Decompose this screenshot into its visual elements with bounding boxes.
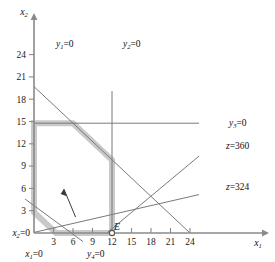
label-vertex-E: E bbox=[113, 221, 120, 232]
x-tick-labels: 3 6 9 12 15 18 21 24 bbox=[51, 237, 195, 247]
x-tick-label-21: 21 bbox=[166, 237, 176, 247]
gradient-arrow-head bbox=[61, 189, 67, 196]
label-x1-zero: x1=0 bbox=[24, 249, 43, 260]
linear-programming-graph: 3 6 9 12 15 18 21 24 3 6 9 12 15 18 21 2… bbox=[0, 0, 275, 262]
y-tick-labels: 3 6 9 12 15 18 21 24 bbox=[17, 50, 27, 216]
y-tick-label-18: 18 bbox=[17, 95, 27, 105]
y-tick-label-12: 12 bbox=[17, 139, 27, 149]
label-y1: y1=0 bbox=[55, 39, 74, 50]
feasible-region-outline bbox=[34, 123, 112, 233]
label-x2-zero: x2=0 bbox=[11, 228, 30, 239]
label-z-324: z=324 bbox=[225, 182, 250, 192]
y-tick-label-21: 21 bbox=[17, 72, 27, 82]
y-tick-label-9: 9 bbox=[21, 161, 26, 171]
x-tick-label-15: 15 bbox=[127, 237, 137, 247]
x-axis-arrowhead bbox=[262, 230, 269, 237]
y-tick-label-3: 3 bbox=[21, 206, 26, 216]
x-axis-title: x1 bbox=[253, 237, 262, 249]
y-axis-title: x2 bbox=[19, 6, 28, 18]
x-tick-label-18: 18 bbox=[146, 237, 156, 247]
y-tick-label-24: 24 bbox=[17, 50, 27, 60]
gradient-arrow bbox=[61, 189, 76, 217]
x-tick-label-6: 6 bbox=[71, 237, 76, 247]
x-tick-label-24: 24 bbox=[185, 237, 195, 247]
x-tick-label-9: 9 bbox=[90, 237, 95, 247]
label-y4: y4=0 bbox=[86, 249, 105, 260]
label-y2: y2=0 bbox=[122, 39, 141, 50]
x-tick-label-3: 3 bbox=[51, 237, 56, 247]
x-tick-label-12: 12 bbox=[107, 237, 117, 247]
y-tick-label-15: 15 bbox=[17, 117, 27, 127]
y-tick-label-6: 6 bbox=[21, 184, 26, 194]
feasible-region bbox=[34, 123, 112, 233]
constraint-lines bbox=[25, 87, 199, 242]
label-z-360: z=360 bbox=[225, 141, 250, 151]
label-y3: y3=0 bbox=[228, 118, 247, 129]
y-axis-arrowhead bbox=[31, 13, 38, 20]
